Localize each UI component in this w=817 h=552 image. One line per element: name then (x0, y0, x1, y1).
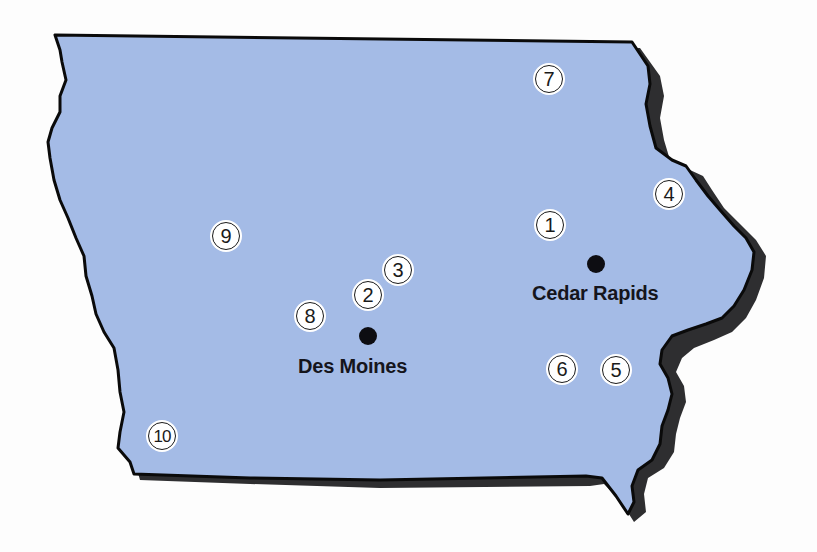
iowa-map: Des Moines Cedar Rapids 1 2 3 4 5 6 7 8 … (0, 0, 817, 552)
location-marker-4[interactable]: 4 (655, 180, 683, 208)
city-label-des-moines: Des Moines (298, 355, 407, 378)
location-marker-6[interactable]: 6 (548, 355, 576, 383)
city-label-cedar-rapids: Cedar Rapids (532, 282, 659, 305)
location-marker-7[interactable]: 7 (535, 65, 563, 93)
location-marker-5[interactable]: 5 (602, 356, 630, 384)
location-marker-8[interactable]: 8 (296, 302, 324, 330)
location-marker-10[interactable]: 10 (148, 422, 176, 450)
city-dot-des-moines (359, 327, 377, 345)
location-marker-2[interactable]: 2 (354, 281, 382, 309)
city-dot-cedar-rapids (587, 255, 605, 273)
location-marker-9[interactable]: 9 (212, 222, 240, 250)
location-marker-3[interactable]: 3 (384, 256, 412, 284)
location-marker-1[interactable]: 1 (536, 211, 564, 239)
